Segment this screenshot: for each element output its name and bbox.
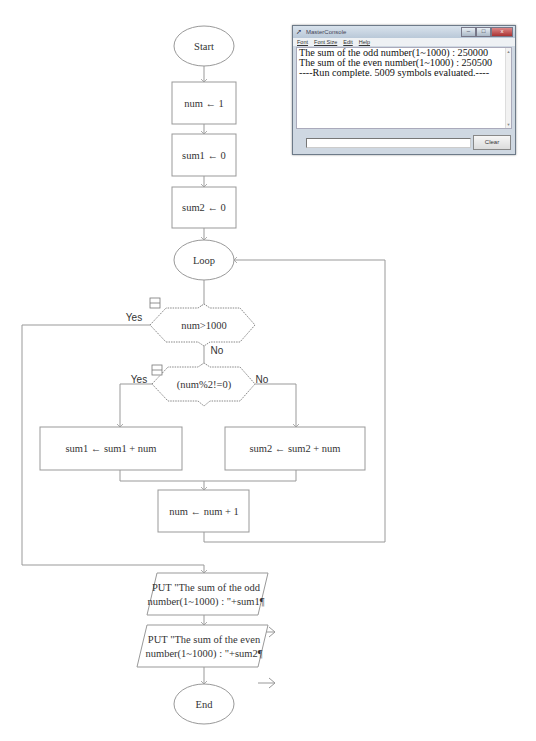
decision2-yes-label: Yes <box>131 374 147 385</box>
output-even-node[interactable]: PUT "The sum of the even number(1~1000) … <box>137 625 268 667</box>
assign-num-node[interactable]: num ← 1 <box>172 82 236 124</box>
assign-sum1-node[interactable]: sum1 ← 0 <box>172 134 236 176</box>
add-sum1-label: sum1 ← sum1 + num <box>65 443 156 454</box>
increment-node[interactable]: num ← num + 1 <box>158 490 249 532</box>
menu-font[interactable]: Font <box>297 39 308 45</box>
start-node[interactable]: Start <box>174 26 234 66</box>
minimize-button[interactable]: – <box>461 27 476 37</box>
add-sum1-node[interactable]: sum1 ← sum1 + num <box>40 427 182 470</box>
console-input[interactable] <box>306 138 471 148</box>
loop-node[interactable]: Loop <box>174 240 234 280</box>
console-titlebar[interactable]: ➚ MasterConsole – □ x <box>293 26 515 38</box>
window-controls: – □ x <box>461 27 513 37</box>
console-menubar: Font Font Size Edit Help <box>293 38 515 46</box>
add-sum2-node[interactable]: sum2 ← sum2 + num <box>225 427 365 470</box>
assign-sum2-label: sum2 ← 0 <box>182 202 226 213</box>
end-node[interactable]: End <box>174 684 234 724</box>
output-line: ----Run complete. 5009 symbols evaluated… <box>297 68 511 78</box>
output-odd-line1: PUT "The sum of the odd <box>152 582 261 593</box>
clear-button[interactable]: Clear <box>473 135 511 150</box>
decision1-no-label: No <box>211 345 224 356</box>
decision2-label: (num%2!=0) <box>177 379 232 391</box>
increment-label: num ← num + 1 <box>169 506 239 517</box>
scroll-down-icon[interactable]: ▼ <box>506 122 511 127</box>
output-even-line2: number(1~1000) : "+sum2¶ <box>146 648 263 660</box>
master-console-window: ➚ MasterConsole – □ x Font Font Size Edi… <box>292 25 516 155</box>
menu-help[interactable]: Help <box>359 39 370 45</box>
menu-font-size[interactable]: Font Size <box>314 39 337 45</box>
decision-num-gt-1000[interactable]: num>1000 Yes No <box>126 298 255 356</box>
output-odd-line2: number(1~1000) : "+sum1¶ <box>148 596 265 608</box>
output-even-line1: PUT "The sum of the even <box>148 634 261 645</box>
console-output[interactable]: The sum of the odd number(1~1000) : 2500… <box>296 47 512 129</box>
console-title: MasterConsole <box>306 29 346 35</box>
app-icon: ➚ <box>296 29 303 36</box>
output-scrollbar[interactable]: ▲ ▼ <box>505 48 511 128</box>
output-odd-node[interactable]: PUT "The sum of the odd number(1~1000) :… <box>147 573 268 615</box>
assign-sum1-label: sum1 ← 0 <box>182 150 226 161</box>
menu-edit[interactable]: Edit <box>343 39 352 45</box>
collapse-icon[interactable] <box>152 365 162 375</box>
scroll-up-icon[interactable]: ▲ <box>506 49 511 54</box>
start-label: Start <box>194 41 214 52</box>
close-button[interactable]: x <box>491 27 513 37</box>
decision1-yes-label: Yes <box>126 312 142 323</box>
assign-sum2-node[interactable]: sum2 ← 0 <box>172 187 236 228</box>
end-label: End <box>196 699 214 710</box>
maximize-button[interactable]: □ <box>476 27 491 37</box>
add-sum2-label: sum2 ← sum2 + num <box>249 443 340 454</box>
assign-num-label: num ← 1 <box>184 98 224 109</box>
decision1-label: num>1000 <box>181 320 227 331</box>
loop-label: Loop <box>193 255 215 266</box>
decision2-no-label: No <box>256 374 269 385</box>
collapse-icon[interactable] <box>150 298 160 308</box>
